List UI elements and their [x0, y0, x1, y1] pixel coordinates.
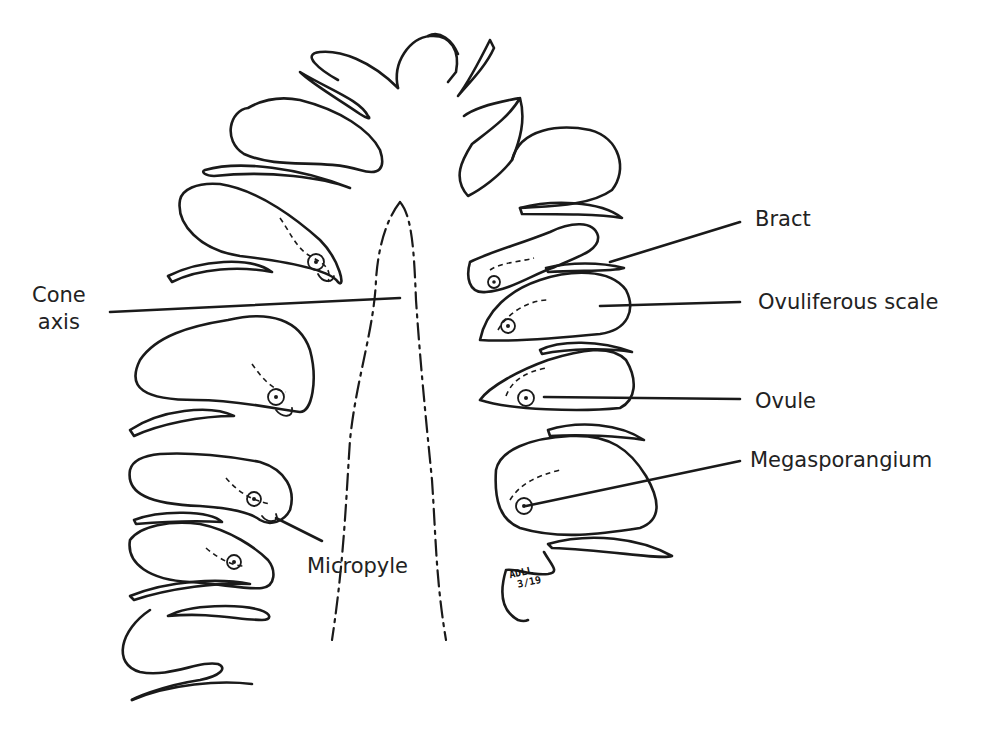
cone-apex: [312, 34, 458, 88]
scale-right-4: [480, 350, 644, 440]
label-cone-axis-line1: Cone: [32, 282, 86, 309]
label-ovule: Ovule: [755, 388, 816, 415]
leader-micropyle: [276, 518, 322, 541]
scale-right-3: [480, 273, 632, 354]
scale-left-5: [130, 523, 274, 620]
label-ovuliferous-scale: Ovuliferous scale: [758, 289, 938, 316]
scale-left-4: [130, 453, 292, 524]
label-megasporangium: Megasporangium: [750, 447, 932, 474]
leader-cone-axis: [110, 298, 400, 312]
leader-bract: [610, 222, 740, 262]
scale-right-5: [496, 436, 672, 557]
cone-section-drawing: [0, 0, 996, 738]
label-cone-axis: Cone axis: [32, 282, 86, 337]
label-bract: Bract: [755, 206, 811, 233]
scale-left-1: [231, 72, 383, 172]
label-cone-axis-line2: axis: [32, 309, 86, 336]
scale-right-1: [458, 40, 622, 218]
leader-ovule: [544, 397, 740, 399]
label-micropyle: Micropyle: [307, 553, 408, 580]
leader-ovuliferous-scale: [600, 302, 740, 306]
scale-left-3: [130, 316, 314, 436]
scale-left-6: [123, 610, 252, 700]
scale-right-2: [468, 224, 624, 292]
scale-left-2: [168, 166, 350, 284]
leader-megasporangium: [526, 461, 740, 506]
